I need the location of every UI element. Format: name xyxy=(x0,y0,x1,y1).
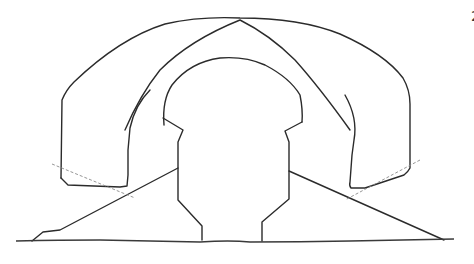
outer-arch xyxy=(61,18,410,188)
right-construction-line xyxy=(345,160,420,200)
ground-line xyxy=(16,239,454,242)
inner-right-shoulder xyxy=(262,122,302,241)
inner-left-shoulder xyxy=(163,118,202,240)
right-brace xyxy=(289,171,444,240)
inner-arch xyxy=(164,58,303,125)
left-brace xyxy=(32,168,178,241)
sketch-canvas xyxy=(0,0,474,264)
middle-arch xyxy=(125,20,350,130)
